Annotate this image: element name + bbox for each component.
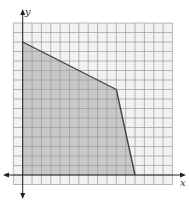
y-axis-label: y (24, 6, 31, 17)
x-axis-arrow-left-icon (3, 173, 9, 178)
y-axis-arrow-down-icon (20, 193, 25, 199)
graph: x y (0, 0, 189, 204)
x-axis-label: x (180, 177, 186, 188)
